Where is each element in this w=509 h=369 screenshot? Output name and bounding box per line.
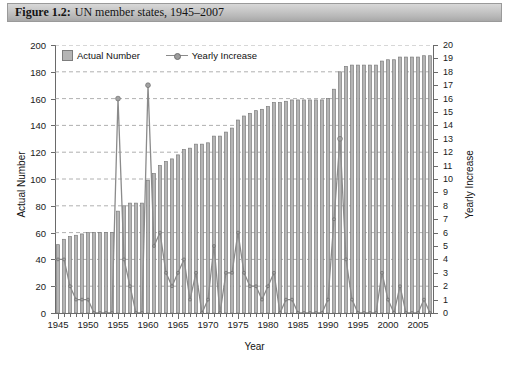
- line-marker: [345, 258, 348, 261]
- y-axis-right-tick: [434, 313, 438, 314]
- bar: [405, 57, 408, 313]
- line-marker: [129, 285, 132, 288]
- legend-label-actual-number: Actual Number: [77, 50, 140, 61]
- plot-area: [55, 45, 433, 313]
- bar: [363, 65, 366, 313]
- line-marker: [285, 298, 288, 301]
- legend-swatch-icon: [62, 50, 73, 61]
- y-axis-right-tick: [434, 112, 438, 113]
- y-axis-left-tick-label: 140: [30, 120, 46, 131]
- y-axis-right-tick-label: 11: [443, 161, 452, 171]
- y-axis-right-tick-label: 2: [443, 281, 448, 291]
- x-axis-tick-label: 1955: [107, 319, 128, 330]
- bar: [99, 233, 102, 313]
- y-axis-right-tick: [434, 179, 438, 180]
- y-axis-right-tick-label: 17: [443, 80, 453, 90]
- x-axis-tick: [370, 313, 371, 317]
- bar: [369, 65, 372, 313]
- bar: [279, 103, 282, 313]
- x-axis-tick: [220, 313, 221, 317]
- x-axis-tick: [298, 313, 299, 319]
- x-axis-tick: [244, 313, 245, 317]
- y-axis-right-tick-label: 9: [443, 187, 448, 197]
- y-axis-right-tick-label: 1: [443, 295, 448, 305]
- x-axis-tick: [334, 313, 335, 317]
- line-marker: [75, 298, 78, 301]
- bar: [183, 150, 186, 313]
- x-axis-tick: [160, 313, 161, 317]
- y-axis-right-tick-label: 13: [443, 134, 453, 144]
- y-axis-right-tick: [434, 233, 438, 234]
- x-axis-tick: [388, 313, 389, 319]
- y-axis-left-tick: [51, 125, 55, 126]
- x-axis-tick-label: 1965: [167, 319, 188, 330]
- x-axis-tick-label: 1975: [227, 319, 248, 330]
- line-marker: [261, 298, 264, 301]
- line-marker: [381, 271, 384, 274]
- y-axis-right-tick-label: 16: [443, 94, 453, 104]
- y-axis-right-tick-label: 7: [443, 214, 448, 224]
- bar: [225, 132, 228, 313]
- x-axis-tick: [322, 313, 323, 317]
- line-marker: [225, 271, 228, 274]
- line-marker: [399, 285, 402, 288]
- x-axis-tick: [70, 313, 71, 317]
- y-axis-right-tick: [434, 139, 438, 140]
- plot-svg: [55, 45, 433, 313]
- x-axis-tick-label: 2005: [407, 319, 428, 330]
- x-axis-tick-label: 1985: [287, 319, 308, 330]
- line-marker: [291, 298, 294, 301]
- y-axis-left-tick-label: 200: [30, 40, 46, 51]
- y-axis-left-tick: [51, 259, 55, 260]
- x-axis-labels: 1945195019551960196519701975198019851990…: [0, 319, 509, 335]
- line-marker: [237, 231, 240, 234]
- line-marker: [423, 298, 426, 301]
- bar: [375, 65, 378, 313]
- y-axis-right-tick-label: 4: [443, 254, 448, 264]
- bar: [303, 100, 306, 313]
- y-axis-left-tick-label: 60: [35, 227, 46, 238]
- bar: [63, 239, 66, 313]
- y-axis-right-tick: [434, 206, 438, 207]
- x-axis-tick: [394, 313, 395, 317]
- line-marker: [57, 258, 60, 261]
- bar: [321, 100, 324, 313]
- y-axis-right-tick: [434, 259, 438, 260]
- x-axis-tick: [340, 313, 341, 317]
- bar: [387, 60, 390, 313]
- y-axis-left-tick: [51, 313, 55, 314]
- bar: [129, 203, 132, 313]
- bar: [339, 72, 342, 313]
- line-marker: [273, 271, 276, 274]
- x-axis-tick: [88, 313, 89, 319]
- bar: [69, 237, 72, 313]
- y-axis-right-tick: [434, 58, 438, 59]
- y-axis-right-tick: [434, 72, 438, 73]
- x-axis-tick: [184, 313, 185, 317]
- x-axis-tick: [172, 313, 173, 317]
- line-marker: [171, 285, 174, 288]
- x-axis-tick-label: 1945: [47, 319, 68, 330]
- line-marker: [243, 271, 246, 274]
- y-axis-right-tick-label: 5: [443, 241, 448, 251]
- y-axis-right-tick: [434, 45, 438, 46]
- line-marker: [213, 245, 216, 248]
- x-axis-tick: [250, 313, 251, 317]
- x-axis-tick: [64, 313, 65, 317]
- x-axis-tick: [382, 313, 383, 317]
- x-axis-tick: [316, 313, 317, 317]
- figure-label: Figure 1.2:: [15, 5, 71, 20]
- x-axis-tick: [112, 313, 113, 317]
- x-axis-tick: [328, 313, 329, 319]
- bar: [93, 233, 96, 313]
- x-axis-tick: [136, 313, 137, 317]
- y-axis-left-tick-label: 80: [35, 200, 46, 211]
- y-axis-right-tick-label: 12: [443, 147, 453, 157]
- line-marker: [153, 245, 156, 248]
- y-axis-left-tick-label: 40: [35, 254, 46, 265]
- line-marker: [116, 96, 121, 101]
- bar: [105, 233, 108, 313]
- line-marker: [267, 285, 270, 288]
- x-axis-tick: [292, 313, 293, 317]
- bar: [411, 57, 414, 313]
